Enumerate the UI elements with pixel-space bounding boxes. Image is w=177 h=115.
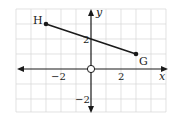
tick-y-pos2: 2 xyxy=(83,34,89,45)
origin-circle xyxy=(87,65,94,72)
tick-x-pos2: 2 xyxy=(118,71,124,82)
x-axis-left-arrow-icon xyxy=(17,66,24,72)
point-h xyxy=(44,22,49,27)
tick-y-neg2: −2 xyxy=(75,94,90,105)
x-axis-label: x xyxy=(159,70,166,83)
tick-x-neg2: −2 xyxy=(51,71,66,82)
point-g xyxy=(134,52,139,57)
label-g: G xyxy=(139,55,148,68)
coordinate-plane: H G y x −2 2 2 −2 xyxy=(0,0,177,115)
label-h: H xyxy=(33,14,43,27)
y-axis-label: y xyxy=(95,6,103,19)
y-axis-up-arrow-icon xyxy=(88,9,94,16)
